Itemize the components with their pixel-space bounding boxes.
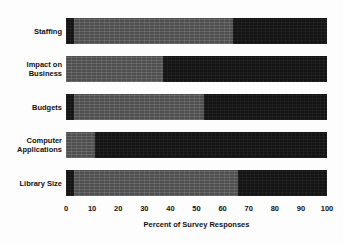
bar-track [66,18,327,44]
x-tick-label-70: 70 [245,204,253,213]
category-label-line: Applications [0,145,62,154]
bar-segment-dark [66,94,74,120]
category-label-line: Library Size [0,179,62,188]
x-tick-label-80: 80 [271,204,279,213]
category-label-line: Business [0,69,62,78]
x-tick-label-40: 40 [166,204,174,213]
category-label-3: Budgets [0,103,62,112]
bar-5 [66,170,327,196]
bar-segment-dark [95,132,327,158]
x-axis-ticks: 0102030405060708090100 [66,204,327,218]
bar-segment-dark [233,18,327,44]
category-axis-labels: StaffingImpact onBusinessBudgetsComputer… [0,12,62,202]
bar-segment-gray [74,94,205,120]
category-label-1: Staffing [0,27,62,36]
x-tick-label-30: 30 [140,204,148,213]
category-label-line: Staffing [0,27,62,36]
bar-segment-gray [74,170,238,196]
bar-segment-gray [66,56,163,82]
bar-track [66,170,327,196]
bar-4 [66,132,327,158]
x-axis-title: Percent of Survey Responses [66,220,327,229]
bar-1 [66,18,327,44]
bar-track [66,132,327,158]
bar-track [66,94,327,120]
category-label-5: Library Size [0,179,62,188]
x-tick-label-100: 100 [321,204,334,213]
x-tick-label-20: 20 [114,204,122,213]
bar-segment-dark [238,170,327,196]
bar-segment-dark [66,170,74,196]
plot-area [66,12,327,202]
category-label-line: Computer [0,136,62,145]
bar-segment-dark [163,56,327,82]
bar-3 [66,94,327,120]
x-tick-label-50: 50 [192,204,200,213]
x-tick-label-10: 10 [88,204,96,213]
bar-segment-dark [204,94,327,120]
category-label-4: ComputerApplications [0,136,62,154]
bar-track [66,56,327,82]
x-tick-label-60: 60 [218,204,226,213]
stacked-bar-chart: StaffingImpact onBusinessBudgetsComputer… [0,0,343,243]
x-tick-label-90: 90 [297,204,305,213]
bar-2 [66,56,327,82]
bar-segment-dark [66,18,74,44]
bar-segment-gray [74,18,233,44]
x-tick-label-0: 0 [64,204,68,213]
category-label-2: Impact onBusiness [0,60,62,78]
bar-segment-gray [66,132,95,158]
category-label-line: Budgets [0,103,62,112]
category-label-line: Impact on [0,60,62,69]
